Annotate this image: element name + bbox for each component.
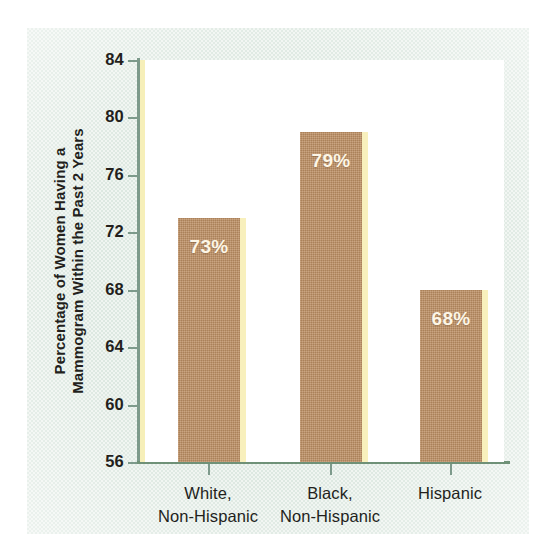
y-tick-mark-76	[128, 175, 137, 177]
y-tick-label-56: 56	[88, 452, 124, 471]
x-category-label-line-1: Black,	[263, 482, 397, 505]
x-tick-mark-black-non-hispanic	[330, 464, 332, 475]
x-category-label-black-non-hispanic: Black, Non-Hispanic	[263, 482, 397, 528]
y-tick-mark-60	[128, 405, 137, 407]
x-category-label-white-non-hispanic: White, Non-Hispanic	[141, 482, 275, 528]
y-axis-title-line-1: Percentage of Women Having a	[51, 148, 68, 375]
x-category-label-line-1: White,	[141, 482, 275, 505]
bar-edge-highlight	[362, 132, 368, 462]
bar-black-non-hispanic[interactable]: 79%	[300, 132, 362, 462]
y-axis-title: Percentage of Women Having a Mammogram W…	[42, 60, 94, 462]
bar-edge-highlight	[240, 218, 246, 462]
bar-value-label-white-non-hispanic: 73%	[178, 236, 240, 258]
x-category-label-line-2: Non-Hispanic	[141, 505, 275, 528]
x-tick-mark-hispanic	[450, 464, 452, 475]
x-category-label-line-2: Non-Hispanic	[263, 505, 397, 528]
bar-white-non-hispanic[interactable]: 73%	[178, 218, 240, 462]
x-category-label-line-1: Hispanic	[392, 482, 508, 505]
y-tick-mark-84	[128, 60, 137, 62]
y-tick-mark-68	[128, 290, 137, 292]
y-tick-mark-64	[128, 347, 137, 349]
plot-area: 73% 79% 68%	[140, 60, 504, 462]
y-tick-label-68: 68	[88, 280, 124, 299]
y-tick-label-84: 84	[88, 50, 124, 69]
bar-edge-highlight	[482, 290, 488, 462]
y-tick-label-80: 80	[88, 107, 124, 126]
y-tick-label-76: 76	[88, 165, 124, 184]
chart-figure: Percentage of Women Having a Mammogram W…	[0, 0, 551, 559]
bar-hispanic[interactable]: 68%	[420, 290, 482, 462]
y-tick-label-72: 72	[88, 222, 124, 241]
y-axis-title-line-2: Mammogram Within the Past 2 Years	[69, 128, 86, 393]
bar-value-label-hispanic: 68%	[420, 308, 482, 330]
y-tick-mark-72	[128, 232, 137, 234]
x-category-label-hispanic: Hispanic	[392, 482, 508, 505]
bar-value-label-black-non-hispanic: 79%	[300, 150, 362, 172]
y-tick-mark-56	[128, 462, 137, 464]
y-tick-label-60: 60	[88, 395, 124, 414]
y-tick-mark-80	[128, 117, 137, 119]
y-tick-label-64: 64	[88, 337, 124, 356]
x-tick-mark-white-non-hispanic	[208, 464, 210, 475]
y-axis-inner-highlight	[140, 60, 145, 462]
